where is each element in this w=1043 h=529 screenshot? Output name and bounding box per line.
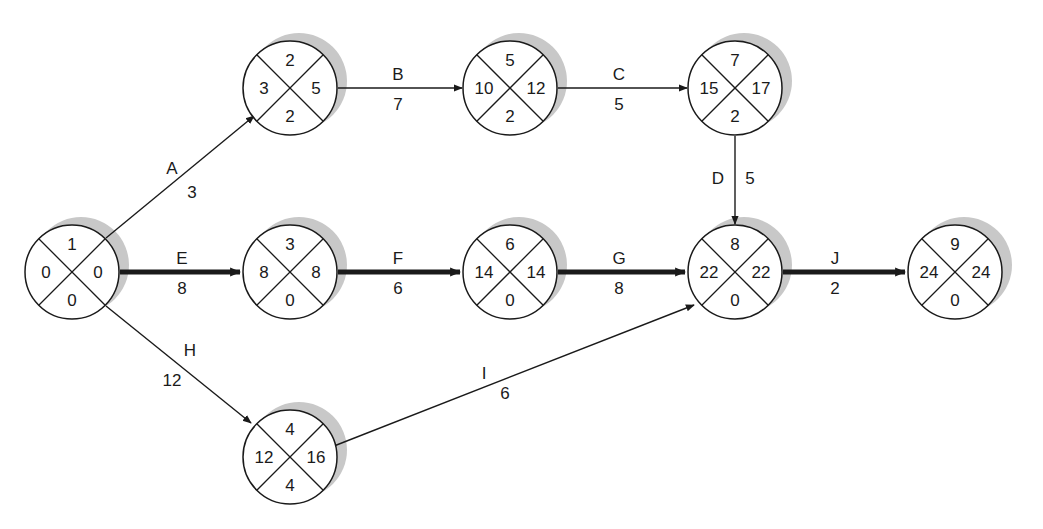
edge-duration-label: 12 (163, 371, 182, 390)
edge-duration-label: 2 (830, 279, 839, 298)
node-right-value: 12 (527, 79, 546, 98)
node-bottom-value: 4 (285, 476, 294, 495)
edge-duration-label: 3 (187, 183, 196, 202)
node-5: 510122 (463, 41, 557, 135)
node-6: 614140 (463, 225, 557, 319)
node-2: 2352 (243, 41, 337, 135)
node-left-value: 10 (475, 79, 494, 98)
edge-duration-label: 8 (177, 279, 186, 298)
node-right-value: 16 (307, 448, 326, 467)
node-top-value: 5 (505, 51, 514, 70)
edge-i (334, 305, 694, 446)
node-9: 924240 (908, 225, 1002, 319)
node-left-value: 15 (700, 79, 719, 98)
node-right-value: 0 (93, 263, 102, 282)
node-right-value: 14 (527, 263, 546, 282)
edge-activity-label: A (166, 159, 178, 178)
node-right-value: 5 (311, 79, 320, 98)
edge-activity-label: B (392, 65, 403, 84)
edge-activity-label: J (831, 249, 840, 268)
node-top-value: 1 (67, 235, 76, 254)
edge-activity-label: F (393, 249, 403, 268)
node-bottom-value: 2 (505, 107, 514, 126)
edge-activity-label: E (176, 249, 187, 268)
edge-duration-label: 7 (393, 95, 402, 114)
edge-duration-label: 8 (614, 279, 623, 298)
node-4: 412164 (243, 410, 337, 504)
node-left-value: 0 (41, 263, 50, 282)
node-left-value: 22 (700, 263, 719, 282)
node-top-value: 4 (285, 420, 294, 439)
edge-h (106, 306, 251, 423)
node-8: 822220 (688, 225, 782, 319)
node-top-value: 3 (285, 235, 294, 254)
node-bottom-value: 0 (67, 291, 76, 310)
node-3: 3880 (243, 225, 337, 319)
edge-activity-label: D (712, 169, 724, 188)
node-7: 715172 (688, 41, 782, 135)
node-top-value: 8 (730, 235, 739, 254)
node-bottom-value: 0 (505, 291, 514, 310)
edge-activity-label: G (612, 249, 625, 268)
network-diagram: 1000235251012271517238806141408222209242… (0, 0, 1043, 529)
node-top-value: 9 (950, 235, 959, 254)
node-1: 1000 (25, 225, 119, 319)
edge-activity-label: I (482, 364, 487, 383)
node-right-value: 22 (752, 263, 771, 282)
node-left-value: 24 (920, 263, 939, 282)
edge-a (106, 116, 254, 238)
edge-duration-label: 6 (500, 384, 509, 403)
node-bottom-value: 0 (950, 291, 959, 310)
node-left-value: 14 (475, 263, 494, 282)
node-top-value: 7 (730, 51, 739, 70)
node-bottom-value: 0 (285, 291, 294, 310)
node-bottom-value: 2 (730, 107, 739, 126)
edge-activity-label: H (184, 341, 196, 360)
node-right-value: 24 (972, 263, 991, 282)
edge-duration-label: 6 (393, 279, 402, 298)
node-bottom-value: 2 (285, 107, 294, 126)
node-left-value: 8 (259, 263, 268, 282)
node-top-value: 2 (285, 51, 294, 70)
node-left-value: 12 (255, 448, 274, 467)
node-right-value: 8 (311, 263, 320, 282)
node-bottom-value: 0 (730, 291, 739, 310)
edge-duration-label: 5 (614, 95, 623, 114)
edge-duration-label: 5 (745, 169, 754, 188)
node-left-value: 3 (259, 79, 268, 98)
node-right-value: 17 (752, 79, 771, 98)
node-top-value: 6 (505, 235, 514, 254)
edge-activity-label: C (613, 65, 625, 84)
